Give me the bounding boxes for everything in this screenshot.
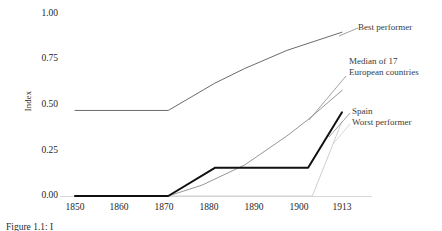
annotation-median-line2: European countries xyxy=(349,67,419,79)
line-chart: Index 1.00 0.75 0.50 0.25 0.00 1850 1860… xyxy=(0,0,442,231)
series-line-median xyxy=(75,90,342,196)
annotation-worst-performer: Worst performer xyxy=(352,117,412,129)
series-line-worst-performer xyxy=(75,121,342,196)
figure-caption: Figure 1.1: I xyxy=(6,222,53,231)
leader-line-worst-performer xyxy=(333,124,350,144)
plot-area xyxy=(0,0,442,231)
series-line-best-performer xyxy=(75,32,342,110)
annotation-median-line1: Median of 17 xyxy=(349,56,398,68)
annotation-spain: Spain xyxy=(352,106,373,118)
annotation-best-performer: Best performer xyxy=(358,22,412,34)
